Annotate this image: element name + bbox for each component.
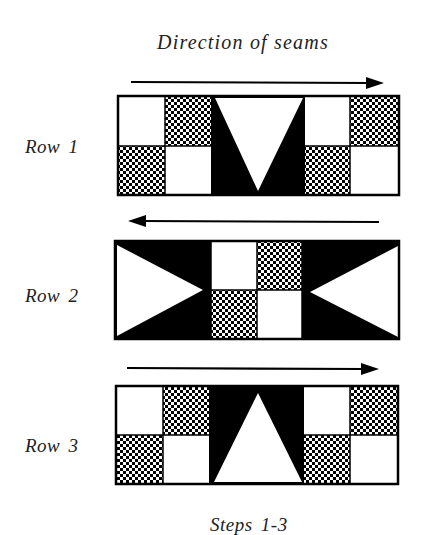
checker-square	[117, 435, 163, 483]
white-square	[211, 242, 257, 290]
white-square	[304, 387, 350, 435]
quilt-seam-diagram	[0, 0, 423, 535]
white-square	[305, 97, 350, 146]
white-square	[119, 97, 165, 146]
checker-square	[305, 146, 350, 194]
checker-square	[350, 97, 398, 146]
checker-square	[163, 387, 209, 435]
checker-square	[165, 97, 211, 146]
white-square	[117, 387, 163, 435]
white-square	[350, 146, 398, 194]
row-3-block	[116, 386, 398, 484]
white-square	[163, 435, 209, 483]
checker-square	[350, 387, 398, 435]
checker-square	[304, 435, 350, 483]
row-3-arrow-right-icon	[127, 363, 379, 375]
white-square	[165, 146, 211, 194]
checker-square	[211, 290, 257, 338]
row-1-block	[118, 96, 399, 195]
row-2-block	[115, 241, 399, 339]
row-2-arrow-left-icon	[128, 215, 379, 227]
white-square	[350, 435, 398, 483]
checker-square	[119, 146, 165, 194]
white-square	[257, 290, 302, 338]
checker-square	[257, 242, 302, 290]
row-1-arrow-right-icon	[131, 77, 384, 89]
